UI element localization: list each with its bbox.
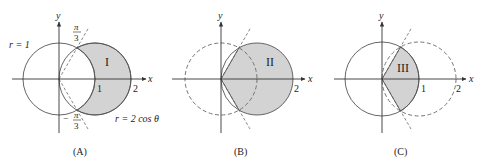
y-axis-label: y [217, 10, 223, 21]
panel-c: y x 1 2 III (C) [334, 10, 474, 158]
angle-label-upper-den: 3 [74, 33, 79, 43]
angle-label-lower-num: π [74, 110, 79, 120]
region-label-II: II [266, 55, 274, 69]
tick-label-2: 2 [133, 83, 138, 94]
panel-caption-b: (B) [234, 146, 247, 158]
tick-label-2: 2 [456, 83, 461, 94]
x-axis-label: x [307, 73, 313, 84]
x-axis-label: x [147, 73, 153, 84]
panel-a: y x 1 2 I r = 1 r = 2 cos θ π 3 − π 3 (A… [9, 10, 159, 158]
angle-label-lower-sign: − [63, 113, 68, 123]
panel-caption-a: (A) [73, 146, 87, 158]
y-axis-label: y [378, 10, 384, 21]
curve-label-r2cos: r = 2 cos θ [115, 113, 159, 124]
panel-caption-c: (C) [394, 146, 407, 158]
curve-label-r1: r = 1 [9, 39, 30, 50]
x-axis-label: x [468, 73, 474, 84]
region-label-I: I [105, 55, 109, 69]
panel-b: y x 2 II (B) [172, 10, 313, 158]
region-label-III: III [397, 61, 409, 75]
tick-label-1: 1 [97, 83, 102, 94]
angle-label-lower-den: 3 [74, 121, 79, 131]
polar-area-figure: y x 1 2 I r = 1 r = 2 cos θ π 3 − π 3 (A… [0, 0, 491, 165]
y-axis-label: y [55, 10, 61, 21]
angle-label-upper-num: π [74, 22, 79, 32]
tick-label-2: 2 [294, 83, 299, 94]
tick-label-1: 1 [421, 83, 426, 94]
